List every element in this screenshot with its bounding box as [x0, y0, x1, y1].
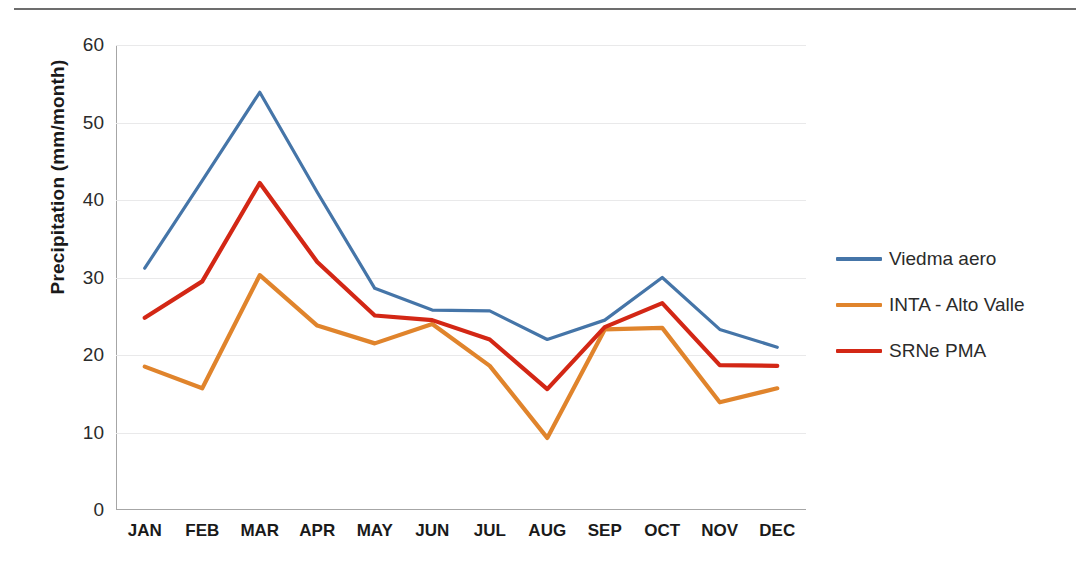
x-tick-label: AUG [528, 521, 566, 541]
x-tick-label: OCT [644, 521, 680, 541]
legend: Viedma aeroINTA - Alto ValleSRNe PMA [836, 236, 1086, 374]
precipitation-line-chart: Precipitation (mm/month) 0102030405060 J… [0, 18, 1089, 574]
series-line [145, 183, 778, 389]
x-tick-label: APR [299, 521, 335, 541]
series-lines-group [116, 45, 806, 510]
legend-label: Viedma aero [889, 248, 996, 270]
x-tick-label: DEC [759, 521, 795, 541]
top-divider-rule [14, 8, 1076, 10]
legend-entry[interactable]: SRNe PMA [836, 328, 1086, 374]
x-tick-label: JAN [128, 521, 162, 541]
legend-entry[interactable]: INTA - Alto Valle [836, 282, 1086, 328]
y-tick-label: 10 [83, 422, 104, 444]
legend-color-swatch [836, 257, 882, 261]
y-tick-label: 0 [93, 499, 104, 521]
x-tick-label: JUN [415, 521, 449, 541]
y-tick-label: 30 [83, 267, 104, 289]
y-tick-label: 40 [83, 189, 104, 211]
y-tick-label: 50 [83, 112, 104, 134]
x-tick-label: JUL [474, 521, 506, 541]
legend-entry[interactable]: Viedma aero [836, 236, 1086, 282]
y-axis-title: Precipitation (mm/month) [47, 27, 69, 327]
plot-area: 0102030405060 JANFEBMARAPRMAYJUNJULAUGSE… [116, 45, 806, 510]
legend-label: INTA - Alto Valle [889, 294, 1025, 316]
legend-color-swatch [836, 303, 882, 307]
x-tick-label: MAY [357, 521, 393, 541]
series-line [145, 275, 778, 438]
x-tick-label: SEP [588, 521, 622, 541]
x-tick-label: FEB [185, 521, 219, 541]
x-tick-label: MAR [240, 521, 279, 541]
x-tick-label: NOV [701, 521, 738, 541]
y-tick-label: 20 [83, 344, 104, 366]
y-tick-label: 60 [83, 34, 104, 56]
page-root: Precipitation (mm/month) 0102030405060 J… [0, 0, 1089, 580]
legend-color-swatch [836, 349, 882, 353]
legend-label: SRNe PMA [889, 340, 986, 362]
